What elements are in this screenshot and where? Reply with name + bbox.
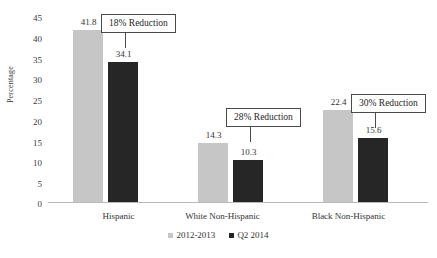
legend: 2012-2013 Q2 2014 — [0, 231, 437, 240]
bar-hispanic-q2-2014[interactable] — [108, 62, 138, 202]
y-tick-45: 45 — [26, 14, 42, 23]
x-label-black-non-hispanic: Black Non-Hispanic — [286, 212, 411, 221]
bar-black-non-hispanic-2012-2013[interactable] — [323, 110, 353, 202]
y-axis-title: Percentage — [6, 40, 15, 130]
bar-black-non-hispanic-q2-2014[interactable] — [358, 138, 388, 202]
value-label-white-non-hispanic-2012-2013: 14.3 — [191, 131, 236, 140]
value-label-hispanic-q2-2014: 34.1 — [101, 50, 146, 59]
y-tick-35: 35 — [26, 56, 42, 65]
callout-white-non-hispanic: 28% Reduction — [226, 108, 301, 127]
legend-label-2012-2013: 2012-2013 — [176, 231, 215, 240]
callout-leader-hispanic — [125, 32, 126, 48]
bar-group-hispanic: 41.8 34.1 — [66, 17, 166, 202]
bar-hispanic-2012-2013[interactable] — [73, 30, 103, 202]
bar-white-non-hispanic-2012-2013[interactable] — [198, 143, 228, 202]
legend-item-q2-2014[interactable]: Q2 2014 — [229, 231, 268, 240]
y-tick-0: 0 — [26, 200, 42, 209]
value-label-white-non-hispanic-q2-2014: 10.3 — [226, 148, 271, 157]
y-axis-ticks: 45 40 35 30 25 20 15 10 5 0 — [26, 0, 42, 258]
legend-swatch-icon-q2-2014 — [229, 233, 234, 238]
bar-white-non-hispanic-q2-2014[interactable] — [233, 160, 263, 202]
value-label-black-non-hispanic-q2-2014: 15.6 — [351, 126, 396, 135]
y-tick-5: 5 — [26, 180, 42, 189]
callout-hispanic: 18% Reduction — [101, 14, 176, 33]
bar-chart: Percentage 45 40 35 30 25 20 15 10 5 0 4… — [0, 0, 437, 258]
callout-leader-black-non-hispanic — [375, 112, 376, 128]
legend-swatch-icon-2012-2013 — [168, 233, 173, 238]
y-tick-20: 20 — [26, 118, 42, 127]
x-axis-line — [48, 202, 428, 203]
y-tick-25: 25 — [26, 97, 42, 106]
x-label-white-non-hispanic: White Non-Hispanic — [160, 212, 285, 221]
callout-leader-white-non-hispanic — [250, 126, 251, 142]
callout-black-non-hispanic: 30% Reduction — [351, 94, 426, 113]
legend-label-q2-2014: Q2 2014 — [237, 231, 268, 240]
legend-item-2012-2013[interactable]: 2012-2013 — [168, 231, 215, 240]
y-tick-40: 40 — [26, 35, 42, 44]
y-tick-15: 15 — [26, 139, 42, 148]
y-tick-30: 30 — [26, 76, 42, 85]
y-tick-10: 10 — [26, 159, 42, 168]
